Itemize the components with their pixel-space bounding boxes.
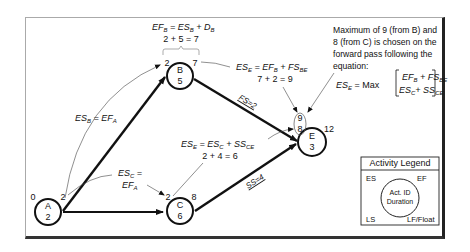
- node-e-duration: 3: [309, 142, 314, 152]
- legend-duration: Duration: [387, 198, 414, 205]
- pointer-arrow-icon: [283, 87, 297, 112]
- node-c-ef: 8: [191, 192, 196, 202]
- link-label-fs: FS=2: [237, 93, 259, 111]
- svg-text:ESE = Max: ESE = Max: [336, 80, 380, 91]
- annotation-max-note: Maximum of 9 (from B) and 8 (from C) is …: [308, 25, 448, 112]
- pointer-arrow-icon: [308, 73, 334, 112]
- svg-text:forward pass following the: forward pass following the: [333, 49, 433, 59]
- svg-text:EFA: EFA: [122, 180, 138, 191]
- network-diagram: FS=2 SS=4 A 2 0 2 B 5 2 7 C 6 2 8 E 3 12…: [0, 0, 470, 252]
- annotation-es-b: ESB = EFA: [65, 65, 160, 198]
- node-a-id: A: [45, 201, 51, 211]
- svg-text:equation:: equation:: [333, 61, 368, 71]
- svg-text:EFB + FSBE: EFB + FSBE: [402, 72, 448, 83]
- brace-icon: [163, 46, 199, 55]
- link-a-b: [63, 77, 165, 211]
- svg-text:8 (from C) is chosen on the: 8 (from C) is chosen on the: [333, 37, 437, 47]
- es-e-c-calc: 2 + 4 = 6: [202, 151, 238, 161]
- activity-legend: Activity Legend Act. ID Duration ES EF L…: [361, 157, 439, 225]
- node-e-ef: 12: [324, 124, 334, 134]
- legend-es: ES: [366, 174, 376, 183]
- node-a: A 2 0 2: [30, 192, 65, 225]
- legend-title: Activity Legend: [369, 158, 430, 168]
- legend-ef: EF: [417, 174, 427, 183]
- annotation-ef-b: EFB = ESB + DB 2 + 5 = 7: [152, 22, 215, 55]
- annotation-es-c: ESC = EFA: [68, 168, 164, 195]
- svg-text:Maximum of 9 (from B) and: Maximum of 9 (from B) and: [333, 25, 437, 35]
- node-a-ef: 2: [60, 192, 65, 202]
- node-a-duration: 2: [45, 212, 50, 222]
- node-a-es: 0: [30, 192, 35, 202]
- node-c-es: 2: [165, 192, 170, 202]
- legend-act-id: Act. ID: [389, 189, 410, 196]
- node-c-id: C: [177, 200, 184, 210]
- node-b-ef: 7: [192, 58, 197, 68]
- legend-lf-float: LF/Float: [407, 215, 435, 224]
- legend-ls: LS: [366, 215, 375, 224]
- svg-text:ESC+ SSCE: ESC+ SSCE: [399, 85, 444, 96]
- node-b-duration: 5: [177, 76, 182, 86]
- node-c-duration: 6: [177, 211, 182, 221]
- svg-text:ESE = ESC + SSCE: ESE = ESC + SSCE: [181, 139, 255, 150]
- node-b-id: B: [177, 65, 183, 75]
- node-b-es: 2: [164, 58, 169, 68]
- node-b: B 5 2 7: [164, 58, 197, 89]
- pointer-arrow-icon: [65, 65, 160, 198]
- node-e-id: E: [309, 131, 315, 141]
- svg-text:EFB = ESB + DB: EFB = ESB + DB: [152, 22, 215, 33]
- svg-text:ESC =: ESC =: [118, 168, 142, 179]
- pointer-arrow-icon: [147, 185, 164, 195]
- svg-text:ESB = EFA: ESB = EFA: [75, 113, 117, 124]
- svg-text:ESE = EFB + FSBE: ESE = EFB + FSBE: [236, 62, 309, 73]
- node-c: C 6 2 8: [165, 192, 196, 224]
- node-e-es-from-c: 8: [297, 124, 302, 134]
- pointer-line-icon: [68, 175, 112, 195]
- ef-b-calc: 2 + 5 = 7: [163, 34, 199, 44]
- node-e-es-from-b: 9: [297, 113, 302, 123]
- es-e-b-calc: 7 + 2 = 9: [257, 74, 293, 84]
- node-e: E 3 12 9 8: [294, 113, 334, 156]
